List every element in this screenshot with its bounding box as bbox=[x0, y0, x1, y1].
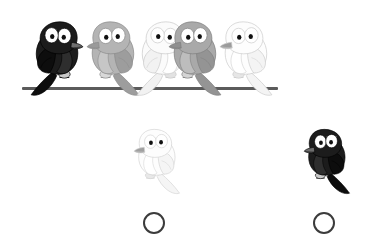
wire-bird-5-white bbox=[213, 18, 277, 98]
option-bird-b-black bbox=[298, 126, 354, 196]
worksheet-canvas: Bird Pattern Question bbox=[0, 0, 380, 244]
watermark bbox=[318, 2, 376, 36]
answer-choice-circle-b[interactable] bbox=[313, 212, 335, 234]
page-title: Bird Pattern Question bbox=[0, 0, 1, 1]
answer-choice-circle-a[interactable] bbox=[143, 212, 165, 234]
option-bird-a-white bbox=[128, 126, 184, 196]
